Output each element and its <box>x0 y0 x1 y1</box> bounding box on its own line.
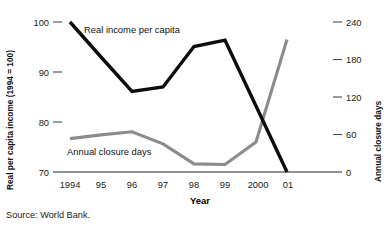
y-right-tick-label: 60 <box>346 130 356 140</box>
x-tick-label: 01 <box>283 180 293 190</box>
x-axis-ticks: 1994 95 96 97 98 99 2000 01 <box>60 180 294 190</box>
x-tick-label: 1994 <box>60 180 81 190</box>
y-axis-right-ticks: 240 180 120 60 0 <box>333 18 362 178</box>
y-left-tick-label: 80 <box>39 118 49 128</box>
y-axis-right-title: Annual closure days <box>373 100 383 182</box>
series-annotation-closure-days: Annual closure days <box>67 146 152 157</box>
x-tick-label: 97 <box>158 180 168 190</box>
y-axis-left-title: Real per capita income (1994 = 100) <box>5 50 15 190</box>
y-axis-left-ticks: 100 90 80 70 <box>33 18 62 178</box>
y-right-tick-label: 0 <box>346 168 351 178</box>
chart-figure: Real per capita income (1994 = 100) Annu… <box>0 0 390 233</box>
line-chart-svg: Real per capita income (1994 = 100) Annu… <box>0 0 390 233</box>
y-left-tick-label: 100 <box>33 18 49 28</box>
x-tick-label: 2000 <box>248 180 269 190</box>
x-tick-label: 96 <box>127 180 137 190</box>
series-annotation-real-income: Real income per capita <box>84 24 181 35</box>
y-left-tick-label: 90 <box>39 68 49 78</box>
y-right-tick-label: 180 <box>346 55 362 65</box>
source-note: Source: World Bank. <box>6 210 90 220</box>
y-left-tick-label: 70 <box>39 168 49 178</box>
y-right-tick-label: 240 <box>346 18 362 28</box>
y-right-tick-label: 120 <box>346 93 362 103</box>
x-axis-title: Year <box>190 195 210 206</box>
x-tick-label: 98 <box>189 180 199 190</box>
x-tick-label: 99 <box>220 180 230 190</box>
x-tick-label: 95 <box>96 180 106 190</box>
